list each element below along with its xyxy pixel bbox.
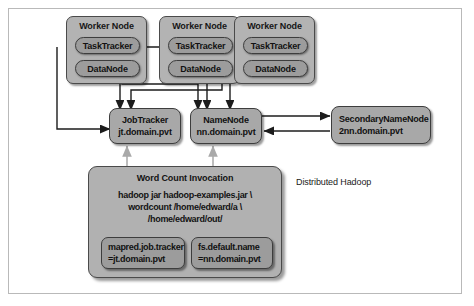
secondarynamenode-node: SecondaryNameNode 2nn.domain.pvt [331,106,431,144]
config-mapred-job-tracker-key: mapred.job.tracker [108,241,184,253]
secondarynamenode-host: 2nn.domain.pvt [339,125,403,137]
worker-node-3-tasktracker: TaskTracker [243,37,308,54]
config-fs-default-name: fs.default.name =nn.domain.pvt [191,237,273,269]
jobtracker-node: JobTracker jt.domain.pvt [109,108,181,144]
worker-node-1-tasktracker: TaskTracker [75,37,140,54]
invocation-command-line-2: wordcount /home/edward/a \ [95,201,275,213]
worker-node-1-title: Worker Node [67,21,146,31]
distributed-hadoop-caption: Distributed Hadoop [296,177,371,187]
jobtracker-name: JobTracker [122,114,168,126]
invocation-command-line-3: /home/edward/out/ [95,213,275,225]
worker-node-3-title: Worker Node [235,21,314,31]
config-fs-default-name-key: fs.default.name [198,241,260,253]
invocation-command: hadoop jar hadoop-examples.jar \ wordcou… [89,189,281,225]
worker-node-1-datanode: DataNode [75,60,140,77]
worker-node-3: Worker Node TaskTracker DataNode [234,16,315,84]
diagram-canvas: Worker Node TaskTracker DataNode Worker … [0,0,474,306]
worker-node-1: Worker Node TaskTracker DataNode [66,16,147,84]
jobtracker-host: jt.domain.pvt [118,126,171,138]
worker-node-2-datanode: DataNode [168,60,233,77]
namenode-node: NameNode nn.domain.pvt [190,108,262,144]
worker-node-2-tasktracker: TaskTracker [168,37,233,54]
config-mapred-job-tracker-value: =jt.domain.pvt [108,253,165,265]
word-count-invocation-box: Word Count Invocation hadoop jar hadoop-… [88,166,282,278]
namenode-host: nn.domain.pvt [197,126,256,138]
config-mapred-job-tracker: mapred.job.tracker =jt.domain.pvt [101,237,185,269]
config-fs-default-name-value: =nn.domain.pvt [198,253,261,265]
namenode-name: NameNode [203,114,248,126]
worker-node-3-datanode: DataNode [243,60,308,77]
secondarynamenode-name: SecondaryNameNode [339,113,429,125]
invocation-title: Word Count Invocation [89,173,281,183]
invocation-command-line-1: hadoop jar hadoop-examples.jar \ [95,189,275,201]
worker-node-2-title: Worker Node [160,21,239,31]
worker-node-2: Worker Node TaskTracker DataNode [159,16,240,84]
